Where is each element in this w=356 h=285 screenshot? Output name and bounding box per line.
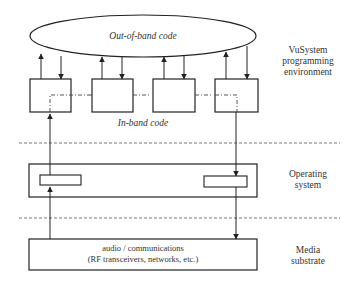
in-band-module-1 [30,79,71,112]
in-band-flow [50,95,258,112]
in-band-module-4 [215,79,258,112]
media-box-line: audio / communications [29,243,257,254]
label-line: system [268,180,348,191]
media-box-line: (RF transceivers, networks, etc.) [29,254,257,265]
label-line: environment [268,67,348,78]
layer-label-vusystem: VuSystem programming environment [268,45,348,78]
os-output-buffer [204,176,247,187]
layer-label-media: Media substrate [268,245,348,267]
in-band-module-2 [92,79,133,112]
label-line: Operating [268,169,348,180]
media-box-text: audio / communications (RF transceivers,… [29,243,257,265]
in-band-label: In-band code [93,118,193,129]
label-line: substrate [268,256,348,267]
label-line: VuSystem [268,45,348,56]
os-box [29,164,257,197]
label-line: Media [268,245,348,256]
label-line: programming [268,56,348,67]
in-band-module-3 [153,79,195,112]
out-of-band-label: Out-of-band code [93,31,193,42]
os-input-buffer [40,175,81,185]
layer-label-os: Operating system [268,169,348,191]
